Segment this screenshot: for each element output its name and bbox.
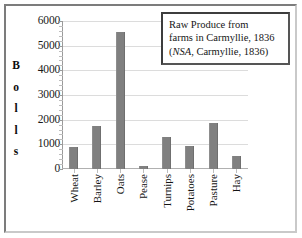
y-axis-title-letter: l <box>14 125 17 137</box>
y-tick-label: 3000 <box>38 89 60 101</box>
y-axis-tick-labels: 6000 5000 4000 3000 2000 1000 0 <box>18 21 60 169</box>
bar-slot <box>109 21 132 169</box>
x-label-slot: Barley <box>85 172 108 230</box>
annotation-line-1: Raw Produce from <box>169 18 283 31</box>
x-label-slot: Hay <box>225 172 248 230</box>
bar[interactable] <box>185 146 194 169</box>
bar-slot <box>132 21 155 169</box>
x-tick-label: Pease <box>138 174 149 199</box>
x-tick-label: Turnips <box>161 174 172 208</box>
x-label-slot: Pease <box>132 172 155 230</box>
annotation-source-abbrev: NSA <box>173 46 192 57</box>
y-axis-title-letter: B <box>12 60 20 72</box>
x-label-slot: Pasture <box>202 172 225 230</box>
x-tick-label: Oats <box>115 174 126 194</box>
y-axis-tick-major <box>58 169 63 170</box>
bar[interactable] <box>209 123 218 169</box>
x-tick-label: Wheat <box>68 174 79 203</box>
bar[interactable] <box>69 147 78 169</box>
y-tick-label: 4000 <box>38 65 60 77</box>
annotation-textbox: Raw Produce from farms in Carmyllie, 183… <box>161 12 290 65</box>
y-tick-label: 2000 <box>38 114 60 126</box>
bar[interactable] <box>162 137 171 169</box>
x-tick-label: Pasture <box>208 174 219 206</box>
bar-slot <box>85 21 108 169</box>
x-tick-label: Hay <box>231 174 242 192</box>
bar[interactable] <box>232 156 241 169</box>
x-label-slot: Wheat <box>62 172 85 230</box>
x-label-slot: Potatoes <box>178 172 201 230</box>
y-tick-label: 6000 <box>38 15 60 27</box>
annotation-source-rest: , Carmyllie, 1836) <box>191 46 268 57</box>
x-label-slot: Oats <box>109 172 132 230</box>
y-axis-title-letter: s <box>14 146 18 158</box>
x-tick-label: Potatoes <box>184 174 195 211</box>
y-axis-title: B o l l s <box>9 60 23 168</box>
y-tick-label: 5000 <box>38 40 60 52</box>
x-tick-label: Barley <box>91 174 102 203</box>
bar[interactable] <box>116 32 125 169</box>
x-label-slot: Turnips <box>155 172 178 230</box>
bar-slot <box>62 21 85 169</box>
annotation-line-2: farms in Carmyllie, 1836 <box>169 31 283 44</box>
y-axis-title-letter: o <box>13 82 19 94</box>
y-tick-label: 1000 <box>38 139 60 151</box>
chart-figure: 6000 5000 4000 3000 2000 1000 0 B o l l … <box>0 0 302 238</box>
annotation-line-3: (NSA, Carmyllie, 1836) <box>169 45 283 58</box>
bar[interactable] <box>92 126 101 169</box>
x-axis-tick-labels: WheatBarleyOatsPeaseTurnipsPotatoesPastu… <box>62 172 248 230</box>
y-axis-title-letter: l <box>14 103 17 115</box>
